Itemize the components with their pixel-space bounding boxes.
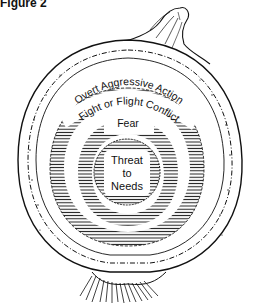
onion-diagram: Overt Aggressive Action Fight or Flight … [0, 0, 258, 304]
label-fear: Fear [117, 117, 139, 129]
onion-root [80, 272, 166, 303]
label-center-line1: Threat [111, 154, 143, 166]
label-center-line3: Needs [111, 180, 143, 192]
label-center-line2: to [122, 167, 131, 179]
